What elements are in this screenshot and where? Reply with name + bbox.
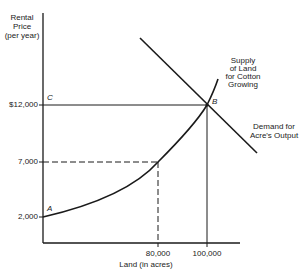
x-tick-label-100000: 100,000 xyxy=(185,249,229,258)
demand-label-line-2: Acre's Output xyxy=(246,131,302,140)
y-tick-label-2000: 2,000 xyxy=(0,212,38,221)
y-axis-label-line-3: (per year) xyxy=(2,31,42,40)
x-axis-label: Land (in acres) xyxy=(106,260,186,269)
point-a-label: A xyxy=(47,204,52,213)
supply-curve-label: Supply of Land for Cotton Growing xyxy=(218,57,268,89)
point-c-label: C xyxy=(47,93,53,102)
point-b-marker xyxy=(205,103,208,106)
demand-label-line-1: Demand for xyxy=(246,122,302,131)
x-tick-label-80000: 80,000 xyxy=(138,249,178,258)
y-tick-label-12000: $12,000 xyxy=(0,100,38,109)
point-b-label: B xyxy=(212,97,217,106)
y-tick-label-7000: 7,000 xyxy=(0,157,38,166)
y-axis-label-line-1: Rental xyxy=(2,13,42,22)
y-axis-label-line-2: Price xyxy=(2,22,42,31)
supply-curve xyxy=(43,79,218,217)
demand-line-label: Demand for Acre's Output xyxy=(246,122,302,140)
y-axis-label: Rental Price (per year) xyxy=(2,13,42,40)
supply-label-line-4: Growing xyxy=(218,81,268,89)
